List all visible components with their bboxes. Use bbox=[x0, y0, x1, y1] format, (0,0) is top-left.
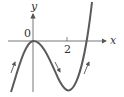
origin-label: 0 bbox=[24, 27, 31, 40]
x-axis-label: x bbox=[110, 34, 117, 47]
y-axis-label: y bbox=[30, 0, 38, 13]
x-tick-label-2: 2 bbox=[64, 43, 71, 56]
arrow-increasing-left-icon bbox=[11, 62, 15, 73]
function-graph: y x 0 2 bbox=[0, 0, 124, 97]
arrow-increasing-right-icon bbox=[84, 62, 89, 74]
cubic-curve bbox=[11, 2, 92, 92]
